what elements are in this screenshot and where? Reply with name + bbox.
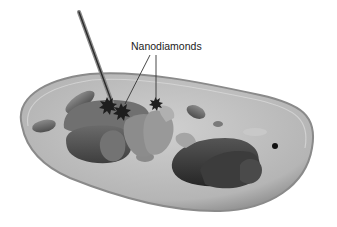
- cell-diagram: [0, 0, 337, 227]
- nanodiamonds-label: Nanodiamonds: [131, 40, 202, 52]
